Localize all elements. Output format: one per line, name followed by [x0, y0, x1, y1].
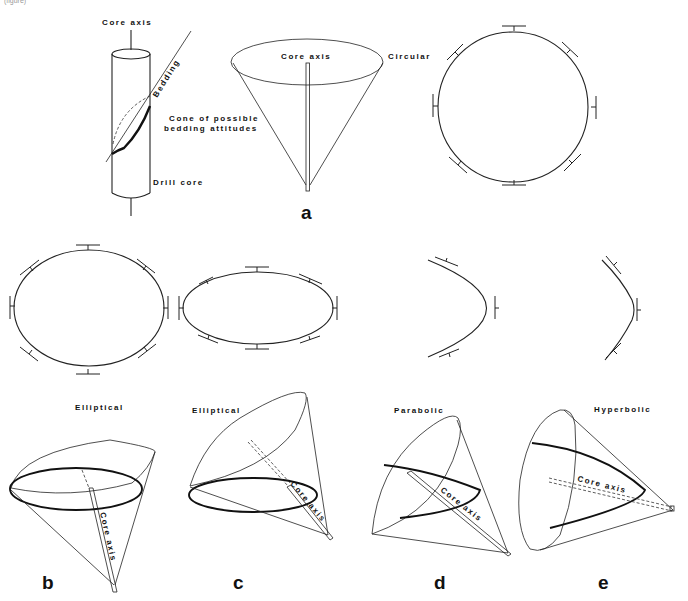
parabolic-trace — [428, 257, 499, 357]
elliptical-label-b: Elliptical — [75, 403, 124, 412]
cone-label-line2: bedding attitudes — [164, 124, 258, 133]
elliptical-trace-c — [179, 267, 337, 349]
figure-canvas: (figure) Core axis Bedding Drill core Co… — [0, 0, 688, 601]
hyperbolic-trace — [602, 256, 641, 360]
header-fragment: (figure) — [4, 0, 26, 5]
elliptical-trace-b — [10, 245, 168, 374]
core-axis-label-e: Core axis — [577, 474, 628, 495]
panel-label-b: b — [42, 572, 54, 593]
parabolic-label: Parabolic — [394, 406, 444, 415]
cone-label-line1: Cone of possible — [169, 114, 259, 123]
drill-core-diagram — [106, 30, 191, 216]
elliptical-label-c: Elliptical — [192, 406, 241, 415]
circular-trace — [433, 26, 596, 185]
panel-label-e: e — [598, 572, 609, 593]
core-axis-label-b: Core axis — [98, 511, 118, 562]
cone-b — [10, 440, 155, 592]
bedding-label: Bedding — [151, 58, 182, 99]
cone-d — [372, 416, 511, 556]
panel-label-d: d — [434, 572, 446, 593]
panel-label-a: a — [301, 202, 312, 223]
cone-core-axis-label: Core axis — [281, 52, 331, 61]
panel-label-c: c — [233, 572, 244, 593]
core-axis-label: Core axis — [102, 18, 152, 27]
hyperbolic-label: Hyperbolic — [594, 405, 651, 414]
drill-core-label: Drill core — [153, 178, 204, 187]
circular-label: Circular — [388, 52, 431, 61]
